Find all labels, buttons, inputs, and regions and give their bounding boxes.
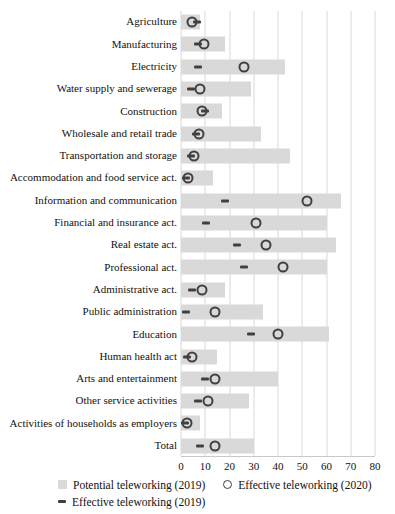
category-label: Public administration bbox=[0, 306, 181, 318]
effective-2019-dash-marker bbox=[221, 199, 229, 202]
category-row: Water supply and sewerage bbox=[0, 78, 395, 100]
bar-track bbox=[181, 122, 375, 144]
category-row: Manufacturing bbox=[0, 33, 395, 55]
category-row: Agriculture bbox=[0, 11, 395, 33]
bar-track bbox=[181, 256, 375, 278]
x-tick-label: 60 bbox=[321, 460, 332, 472]
legend-item-effective-2020: Effective teleworking (2020) bbox=[223, 479, 371, 491]
category-label: Information and communication bbox=[0, 195, 181, 207]
effective-2020-circle-marker bbox=[251, 217, 262, 228]
potential-teleworking-bar bbox=[181, 305, 263, 320]
effective-2020-circle-marker bbox=[209, 373, 220, 384]
effective-2019-dash-marker bbox=[247, 333, 255, 336]
effective-2020-circle-marker bbox=[195, 84, 206, 95]
bar-track bbox=[181, 100, 375, 122]
potential-teleworking-bar bbox=[181, 193, 341, 208]
legend: Potential teleworking (2019) Effective t… bbox=[58, 479, 389, 508]
category-row: Transportation and storage bbox=[0, 145, 395, 167]
category-label: Financial and insurance act. bbox=[0, 217, 181, 229]
category-label: Total bbox=[0, 440, 181, 452]
x-tick-label: 0 bbox=[178, 460, 184, 472]
category-label: Water supply and sewerage bbox=[0, 83, 181, 95]
category-row: Arts and entertainment bbox=[0, 368, 395, 390]
category-row: Real estate act. bbox=[0, 234, 395, 256]
effective-2020-circle-marker bbox=[209, 440, 220, 451]
effective-2020-circle-marker bbox=[196, 106, 207, 117]
category-row: Construction bbox=[0, 100, 395, 122]
legend-row-2: Effective teleworking (2019) bbox=[58, 496, 389, 508]
bar-track bbox=[181, 56, 375, 78]
category-label: Administrative act. bbox=[0, 284, 181, 296]
effective-2020-circle-marker bbox=[196, 284, 207, 295]
potential-teleworking-bar bbox=[181, 260, 327, 275]
category-row: Electricity bbox=[0, 56, 395, 78]
category-row: Activities of households as employers bbox=[0, 412, 395, 434]
bar-track bbox=[181, 345, 375, 367]
effective-2020-circle-marker bbox=[189, 150, 200, 161]
x-tick-label: 40 bbox=[273, 460, 284, 472]
effective-2020-circle-marker bbox=[183, 173, 194, 184]
effective-2020-circle-marker bbox=[273, 329, 284, 340]
bar-track bbox=[181, 212, 375, 234]
effective-2019-dash-marker bbox=[188, 288, 196, 291]
x-tick-label: 80 bbox=[370, 460, 381, 472]
bar-track bbox=[181, 78, 375, 100]
bar-track bbox=[181, 11, 375, 33]
bar-track bbox=[181, 234, 375, 256]
bar-track bbox=[181, 189, 375, 211]
x-tick-label: 30 bbox=[248, 460, 259, 472]
effective-2020-circle-marker bbox=[182, 418, 193, 429]
category-label: Education bbox=[0, 329, 181, 341]
category-row: Accommodation and food service act. bbox=[0, 167, 395, 189]
category-row: Public administration bbox=[0, 301, 395, 323]
effective-2020-circle-marker bbox=[277, 262, 288, 273]
teleworking-chart: AgricultureManufacturingElectricityWater… bbox=[0, 11, 395, 514]
x-tick-label: 10 bbox=[200, 460, 211, 472]
effective-2020-circle-marker bbox=[202, 396, 213, 407]
category-row: Financial and insurance act. bbox=[0, 212, 395, 234]
potential-teleworking-bar bbox=[181, 371, 278, 386]
effective-2020-circle-marker bbox=[209, 307, 220, 318]
effective-2019-dash-marker bbox=[182, 311, 190, 314]
bar-track bbox=[181, 323, 375, 345]
legend-label-potential-2019: Potential teleworking (2019) bbox=[73, 479, 205, 491]
category-row: Wholesale and retail trade bbox=[0, 122, 395, 144]
bar-track bbox=[181, 279, 375, 301]
potential-teleworking-bar bbox=[181, 238, 336, 253]
effective-2020-circle-marker bbox=[260, 240, 271, 251]
legend-label-effective-2019: Effective teleworking (2019) bbox=[72, 496, 205, 508]
x-tick-label: 70 bbox=[345, 460, 356, 472]
category-label: Electricity bbox=[0, 61, 181, 73]
effective-2020-circle-marker bbox=[199, 39, 210, 50]
category-label: Other service activities bbox=[0, 395, 181, 407]
category-label: Transportation and storage bbox=[0, 150, 181, 162]
category-row: Professional act. bbox=[0, 256, 395, 278]
plot-region: AgricultureManufacturingElectricityWater… bbox=[0, 11, 395, 457]
bar-swatch-icon bbox=[58, 480, 67, 489]
bar-track bbox=[181, 412, 375, 434]
effective-2020-circle-marker bbox=[194, 128, 205, 139]
dash-marker-icon bbox=[58, 500, 66, 503]
category-label: Professional act. bbox=[0, 262, 181, 274]
circle-marker-icon bbox=[223, 480, 232, 489]
category-label: Real estate act. bbox=[0, 239, 181, 251]
effective-2019-dash-marker bbox=[233, 244, 241, 247]
effective-2019-dash-marker bbox=[194, 65, 202, 68]
category-row: Other service activities bbox=[0, 390, 395, 412]
category-label: Accommodation and food service act. bbox=[0, 172, 181, 184]
x-tick-label: 20 bbox=[224, 460, 235, 472]
legend-label-effective-2020: Effective teleworking (2020) bbox=[238, 479, 371, 491]
legend-row-1: Potential teleworking (2019) Effective t… bbox=[58, 479, 389, 491]
bar-track bbox=[181, 390, 375, 412]
effective-2019-dash-marker bbox=[187, 88, 195, 91]
potential-teleworking-bar bbox=[181, 394, 249, 409]
category-row: Administrative act. bbox=[0, 279, 395, 301]
category-row: Information and communication bbox=[0, 189, 395, 211]
effective-2019-dash-marker bbox=[194, 400, 202, 403]
category-row: Education bbox=[0, 323, 395, 345]
bar-track bbox=[181, 435, 375, 457]
legend-item-effective-2019: Effective teleworking (2019) bbox=[58, 496, 205, 508]
effective-2019-dash-marker bbox=[202, 221, 210, 224]
bar-track bbox=[181, 167, 375, 189]
x-axis: 01020304050607080 bbox=[181, 457, 375, 474]
